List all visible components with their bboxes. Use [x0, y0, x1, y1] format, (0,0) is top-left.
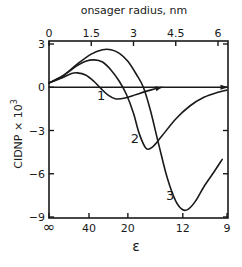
curve-label-1: 1: [97, 88, 105, 103]
y-axis-title-exponent: 3: [10, 99, 19, 104]
y-tick-label: −3: [29, 125, 45, 138]
curve-label-3: 3: [166, 188, 174, 203]
y-axis-title: CIDNP × 103: [10, 99, 25, 169]
top-axis-title: onsager radius, nm: [81, 4, 188, 17]
curve-label-2: 2: [131, 131, 139, 146]
top-tick-label: 3: [130, 27, 137, 40]
bottom-tick-label: 40: [82, 222, 96, 235]
top-tick-label: 1.5: [83, 27, 101, 40]
y-tick-label: −6: [29, 168, 45, 181]
bottom-axis-title: ε: [132, 238, 140, 254]
cidnp-chart: 01.534.56∞402012930−3−6−9 123 onsager ra…: [0, 0, 242, 267]
top-tick-label: 0: [46, 27, 53, 40]
bottom-tick-label: 12: [176, 222, 190, 235]
bottom-tick-label: 9: [224, 222, 231, 235]
y-tick-label: 0: [38, 81, 45, 94]
top-tick-label: 4.5: [167, 27, 185, 40]
y-axis-title-text: CIDNP × 10: [12, 104, 25, 168]
top-tick-label: 6: [215, 27, 222, 40]
bottom-tick-label: 20: [121, 222, 135, 235]
curve-1: [49, 73, 162, 99]
y-tick-label: −9: [29, 211, 45, 224]
y-axis-title-group: CIDNP × 103: [10, 99, 25, 169]
y-tick-label: 3: [38, 38, 45, 51]
